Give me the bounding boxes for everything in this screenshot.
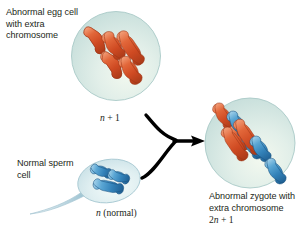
abnormal-egg-cell <box>72 12 161 101</box>
egg-ploidy-label: n + 1 <box>84 112 136 123</box>
zygote-ploidy-suffix: + 1 <box>219 214 234 225</box>
sperm-cell-caption: Normal sperm cell <box>17 158 87 181</box>
nondisjunction-diagram: Abnormal egg cell with extra chromosome … <box>0 0 305 231</box>
sperm-tail <box>30 192 84 214</box>
zygote-ploidy-label: 2n + 1 <box>209 214 269 225</box>
zygote-cell-caption: Abnormal zygote with extra chromosome <box>209 191 305 214</box>
egg-to-zygote-arrow <box>146 115 176 140</box>
egg-ploidy-suffix: + 1 <box>105 112 120 123</box>
fertilization-arrows <box>142 115 194 178</box>
egg-cell-caption: Abnormal egg cell with extra chromosome <box>6 7 80 42</box>
abnormal-zygote-cell <box>205 98 295 188</box>
sperm-to-zygote-arrow <box>142 141 176 178</box>
sperm-ploidy-suffix: (normal) <box>101 207 137 218</box>
sperm-ploidy-label: n (normal) <box>96 207 168 218</box>
